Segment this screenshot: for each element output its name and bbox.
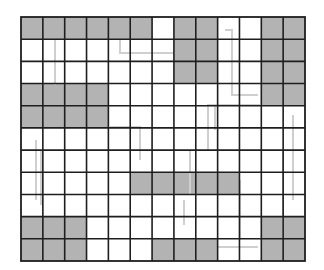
empty-cell	[218, 17, 240, 39]
empty-cell	[43, 194, 65, 216]
empty-cell	[218, 194, 240, 216]
shaded-cell	[218, 172, 240, 194]
empty-cell	[152, 106, 174, 128]
empty-cell	[174, 84, 196, 106]
empty-cell	[65, 194, 87, 216]
empty-cell	[261, 106, 283, 128]
grid-diagram	[0, 0, 324, 270]
empty-cell	[65, 39, 87, 61]
empty-cell	[130, 217, 152, 239]
empty-cell	[196, 84, 218, 106]
empty-cell	[239, 128, 261, 150]
empty-cell	[43, 39, 65, 61]
empty-cell	[174, 106, 196, 128]
shaded-cell	[21, 17, 43, 39]
empty-cell	[196, 194, 218, 216]
empty-cell	[87, 128, 109, 150]
shaded-cell	[283, 39, 305, 61]
empty-cell	[239, 217, 261, 239]
empty-cell	[152, 61, 174, 83]
empty-cell	[239, 239, 261, 261]
empty-cell	[174, 150, 196, 172]
empty-cell	[130, 194, 152, 216]
shaded-cell	[43, 239, 65, 261]
shaded-cell	[283, 217, 305, 239]
empty-cell	[218, 39, 240, 61]
shaded-cell	[283, 239, 305, 261]
empty-cell	[108, 61, 130, 83]
empty-cell	[261, 150, 283, 172]
empty-cell	[108, 239, 130, 261]
shaded-cell	[87, 106, 109, 128]
empty-cell	[130, 84, 152, 106]
empty-cell	[108, 194, 130, 216]
empty-cell	[239, 106, 261, 128]
empty-cell	[283, 172, 305, 194]
empty-cell	[43, 172, 65, 194]
shaded-cell	[152, 239, 174, 261]
empty-cell	[239, 194, 261, 216]
shaded-cell	[283, 61, 305, 83]
empty-cell	[283, 106, 305, 128]
shaded-cell	[130, 172, 152, 194]
shaded-cell	[261, 17, 283, 39]
shaded-cell	[43, 106, 65, 128]
empty-cell	[152, 194, 174, 216]
shaded-cell	[43, 84, 65, 106]
empty-cell	[261, 128, 283, 150]
empty-cell	[283, 150, 305, 172]
empty-cell	[87, 217, 109, 239]
shaded-cell	[196, 239, 218, 261]
empty-cell	[196, 217, 218, 239]
empty-cell	[65, 61, 87, 83]
shaded-cell	[65, 239, 87, 261]
empty-cell	[65, 150, 87, 172]
empty-cell	[261, 194, 283, 216]
empty-cell	[108, 84, 130, 106]
grid-canvas	[0, 0, 324, 270]
shaded-cell	[174, 17, 196, 39]
shaded-cell	[196, 17, 218, 39]
empty-cell	[108, 172, 130, 194]
empty-cell	[108, 217, 130, 239]
empty-cell	[21, 61, 43, 83]
shaded-cell	[174, 61, 196, 83]
empty-cell	[196, 128, 218, 150]
empty-cell	[43, 61, 65, 83]
shaded-cell	[261, 61, 283, 83]
shaded-cell	[196, 61, 218, 83]
empty-cell	[43, 128, 65, 150]
empty-cell	[152, 84, 174, 106]
empty-cell	[130, 39, 152, 61]
shaded-cell	[43, 17, 65, 39]
empty-cell	[108, 128, 130, 150]
empty-cell	[218, 61, 240, 83]
empty-cell	[130, 106, 152, 128]
empty-cell	[152, 150, 174, 172]
empty-cell	[152, 39, 174, 61]
empty-cell	[87, 172, 109, 194]
empty-cell	[239, 150, 261, 172]
empty-cell	[65, 128, 87, 150]
empty-cell	[283, 194, 305, 216]
empty-cell	[174, 128, 196, 150]
shaded-cell	[174, 239, 196, 261]
shaded-cell	[21, 239, 43, 261]
shaded-cell	[65, 106, 87, 128]
empty-cell	[65, 172, 87, 194]
shaded-cell	[196, 39, 218, 61]
empty-cell	[87, 39, 109, 61]
shaded-cell	[21, 84, 43, 106]
shaded-cell	[261, 239, 283, 261]
empty-cell	[152, 217, 174, 239]
empty-cell	[261, 172, 283, 194]
empty-cell	[239, 39, 261, 61]
empty-cell	[21, 172, 43, 194]
shaded-cell	[65, 17, 87, 39]
shaded-cell	[283, 17, 305, 39]
empty-cell	[130, 150, 152, 172]
empty-cell	[218, 128, 240, 150]
empty-cell	[87, 194, 109, 216]
empty-cell	[152, 17, 174, 39]
empty-cell	[87, 239, 109, 261]
